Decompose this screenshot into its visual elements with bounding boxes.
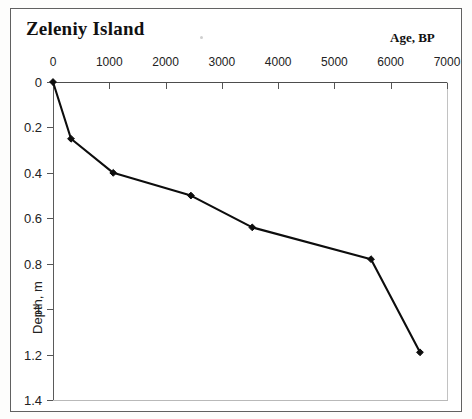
- plot-area: 01000200030004000500060007000 00.20.40.6…: [0, 0, 472, 419]
- series-line: [53, 82, 420, 352]
- data-point-marker: [50, 79, 57, 86]
- series-markers: [50, 79, 424, 356]
- series-plot: [0, 0, 472, 419]
- figure-container: Zeleniy Island Age, BP 01000200030004000…: [0, 0, 472, 419]
